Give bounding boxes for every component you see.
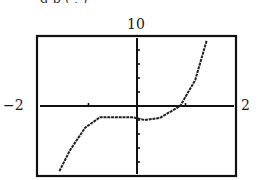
graph-window [0, 0, 258, 180]
